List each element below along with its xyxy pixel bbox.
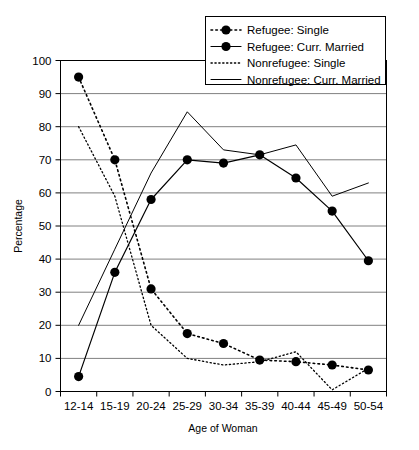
y-tick-label: 30 — [39, 286, 52, 298]
y-tick-label: 40 — [39, 253, 52, 265]
data-point-marker — [291, 173, 300, 182]
x-axis-title: Age of Woman — [188, 422, 257, 434]
x-tick-label: 15-19 — [100, 400, 129, 412]
y-tick-label: 50 — [39, 220, 52, 232]
x-tick-label: 50-54 — [354, 400, 384, 412]
legend-label: Nonrefugee: Single — [247, 57, 345, 69]
data-point-marker — [74, 72, 83, 81]
data-point-marker — [364, 256, 373, 265]
legend-marker-sample — [221, 25, 230, 34]
chart-legend: Refugee: SingleRefugee: Curr. MarriedNon… — [206, 17, 386, 86]
data-point-marker — [219, 159, 228, 168]
x-axis-tick-labels: 12-1415-1920-2425-2930-3435-3940-4445-49… — [64, 400, 384, 412]
chart-container: 1009080706050403020100 12-1415-1920-2425… — [0, 0, 419, 450]
x-tick-label: 30-34 — [209, 400, 239, 412]
data-point-marker — [291, 357, 300, 366]
legend-label: Nonrefugee: Curr. Married — [247, 74, 381, 86]
legend-marker-sample — [221, 42, 230, 51]
x-tick-label: 35-39 — [245, 400, 274, 412]
x-tick-label: 12-14 — [64, 400, 94, 412]
y-tick-label: 70 — [39, 154, 52, 166]
data-point-marker — [146, 195, 155, 204]
y-tick-label: 20 — [39, 319, 52, 331]
data-point-marker — [219, 339, 228, 348]
y-tick-label: 90 — [39, 88, 52, 100]
data-point-marker — [146, 284, 155, 293]
data-point-marker — [110, 268, 119, 277]
x-tick-label: 45-49 — [317, 400, 346, 412]
data-point-marker — [328, 207, 337, 216]
legend-label: Refugee: Single — [247, 24, 329, 36]
y-tick-label: 100 — [32, 55, 51, 67]
data-point-marker — [110, 155, 119, 164]
data-point-marker — [74, 372, 83, 381]
y-tick-label: 0 — [45, 386, 51, 398]
legend-label: Refugee: Curr. Married — [247, 41, 364, 53]
y-tick-label: 80 — [39, 121, 52, 133]
y-tick-label: 60 — [39, 187, 52, 199]
data-point-marker — [183, 155, 192, 164]
y-axis-title: Percentage — [12, 199, 24, 253]
x-tick-label: 25-29 — [173, 400, 202, 412]
y-tick-label: 10 — [39, 352, 52, 364]
x-tick-label: 20-24 — [136, 400, 166, 412]
x-tick-label: 40-44 — [281, 400, 311, 412]
data-point-marker — [328, 360, 337, 369]
data-point-marker — [255, 355, 264, 364]
line-chart: 1009080706050403020100 12-1415-1920-2425… — [0, 0, 419, 450]
data-point-marker — [364, 365, 373, 374]
data-point-marker — [183, 329, 192, 338]
